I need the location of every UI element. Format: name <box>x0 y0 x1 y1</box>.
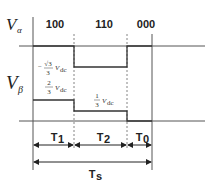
svg-text:β: β <box>17 84 23 95</box>
v-beta-waveform <box>33 100 152 121</box>
t2-label: T 2 <box>97 131 110 145</box>
svg-text:T: T <box>136 131 143 143</box>
switching-waveform-diagram: V α V β 100 110 000 − √3 3 V dc 2 3 V dc… <box>0 0 219 190</box>
svg-text:0: 0 <box>143 133 149 145</box>
svg-text:α: α <box>17 25 22 35</box>
svg-text:3: 3 <box>46 69 50 77</box>
ts-label: T s <box>89 168 102 182</box>
svg-text:1: 1 <box>95 92 99 100</box>
svg-text:T: T <box>51 131 58 143</box>
svg-text:2: 2 <box>104 133 110 145</box>
v-beta-axis-label: V β <box>6 72 23 95</box>
svg-text:T: T <box>97 131 104 143</box>
v-alpha-axis-label: V α <box>6 15 22 35</box>
svg-text:1: 1 <box>58 133 64 145</box>
svg-text:s: s <box>96 170 102 182</box>
state-label-110: 110 <box>95 18 113 30</box>
svg-text:3: 3 <box>47 88 51 96</box>
svg-text:T: T <box>89 168 96 180</box>
t1-label: T 1 <box>51 131 64 145</box>
svg-text:dc: dc <box>60 86 67 94</box>
svg-text:3: 3 <box>95 101 99 109</box>
v-alpha-level-label: − √3 3 V dc <box>38 60 67 77</box>
svg-text:√3: √3 <box>44 60 52 68</box>
svg-text:dc: dc <box>60 66 67 74</box>
svg-text:dc: dc <box>107 99 114 107</box>
v-beta-level-label-110: 1 3 V dc <box>94 92 114 109</box>
svg-text:2: 2 <box>47 79 51 87</box>
t0-label: T 0 <box>136 131 149 145</box>
svg-text:−: − <box>38 63 42 71</box>
state-label-100: 100 <box>46 18 64 30</box>
state-label-000: 000 <box>137 18 155 30</box>
v-beta-level-label-100: 2 3 V dc <box>45 79 67 96</box>
